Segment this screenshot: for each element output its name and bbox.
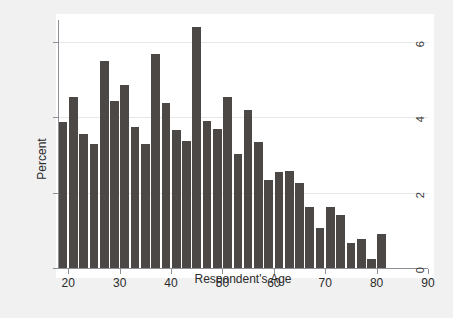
histogram-bar [316, 228, 325, 268]
histogram-bar [275, 172, 284, 268]
histogram-bar [367, 259, 376, 268]
histogram-bars [58, 20, 428, 269]
histogram-bar [285, 171, 294, 268]
histogram-bar [357, 239, 366, 268]
histogram-bar [347, 243, 356, 268]
histogram-bar [264, 180, 273, 268]
histogram-bar [336, 215, 345, 268]
histogram-bar [100, 61, 109, 268]
histogram-bar [305, 207, 314, 268]
histogram-bar [234, 154, 243, 268]
histogram-bar [162, 103, 171, 268]
histogram-bar [69, 97, 78, 268]
histogram-bar [141, 144, 150, 269]
histogram-bar [182, 141, 191, 268]
histogram-bar [59, 122, 68, 268]
histogram-bar [110, 101, 119, 268]
histogram-bar [213, 129, 222, 268]
histogram-bar [172, 130, 181, 268]
histogram-bar [131, 127, 140, 268]
x-axis-title: Respondent's Age [58, 272, 428, 286]
histogram-bar [79, 134, 88, 268]
histogram-bar [244, 110, 253, 268]
histogram-bar [151, 54, 160, 268]
histogram-bar [90, 144, 99, 269]
x-tick-90 [428, 269, 429, 274]
histogram-bar [203, 121, 212, 268]
histogram-bar [326, 207, 335, 268]
histogram-bar [120, 85, 129, 268]
histogram-bar [254, 142, 263, 268]
histogram-figure: Percent 0246 2030405060708090 Respondent… [0, 0, 453, 318]
histogram-bar [295, 183, 304, 268]
histogram-bar [223, 97, 232, 268]
histogram-bar [377, 234, 386, 268]
plot-region: 0246 2030405060708090 [58, 20, 428, 269]
histogram-bar [192, 27, 201, 268]
y-axis-title: Percent [35, 138, 49, 179]
